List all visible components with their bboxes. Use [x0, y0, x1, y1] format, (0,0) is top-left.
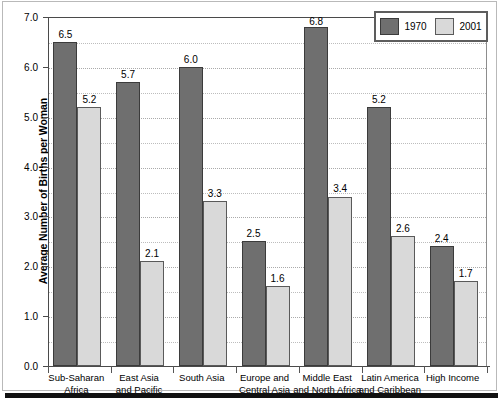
- legend-swatch-2001-icon: [435, 18, 454, 35]
- y-axis-tick-label: 0.0: [8, 361, 38, 372]
- gridline: [49, 193, 486, 194]
- legend-swatch-1970-icon: [380, 18, 399, 35]
- gridline: [49, 242, 486, 243]
- bar-value-label: 1.6: [271, 273, 285, 284]
- bottom-rule-divider: [5, 393, 498, 398]
- bar-value-label: 3.3: [208, 188, 222, 199]
- y-axis-tick-label: 2.0: [8, 261, 38, 272]
- x-axis-category-label: High Income: [426, 372, 479, 384]
- bar-2001-1: [77, 107, 101, 366]
- gridline: [49, 68, 486, 69]
- x-axis-tick-mark: [487, 366, 488, 373]
- x-axis-line: [45, 366, 490, 367]
- gridline: [49, 217, 486, 218]
- bar-value-label: 2.4: [435, 233, 449, 244]
- x-axis-category-label: Sub-SaharanAfrica: [48, 372, 104, 395]
- bar-value-label: 2.6: [396, 223, 410, 234]
- bar-1970-1: [53, 42, 77, 366]
- bar-value-label: 2.1: [145, 248, 159, 259]
- bar-2001-5: [328, 197, 352, 367]
- x-axis-tick-mark: [173, 366, 174, 373]
- x-axis-tick-mark: [111, 366, 112, 373]
- gridline: [49, 93, 486, 94]
- bar-value-label: 6.0: [184, 54, 198, 65]
- gridline: [49, 168, 486, 169]
- gridline: [49, 267, 486, 268]
- gridline: [49, 118, 486, 119]
- x-axis-tick-mark: [236, 366, 237, 373]
- y-axis-tick-label: 5.0: [8, 111, 38, 122]
- bar-1970-4: [242, 241, 266, 366]
- figure-container: Average Number of Births per Woman 0.01.…: [0, 0, 503, 405]
- y-axis-tick-label: 4.0: [8, 161, 38, 172]
- x-axis-category-label: Latin Americaand Caribbean: [359, 372, 421, 395]
- chart-legend: 1970 2001: [374, 11, 488, 42]
- x-axis-category-label: Middle Eastand North Africa: [293, 372, 361, 395]
- bar-value-label: 3.4: [333, 183, 347, 194]
- legend-label-1970: 1970: [404, 21, 426, 32]
- x-axis-category-label-line: Sub-Saharan: [48, 372, 104, 384]
- bar-2001-4: [266, 286, 290, 366]
- plot-area: 6.55.25.72.16.03.32.51.66.83.45.22.62.41…: [48, 17, 487, 366]
- bar-2001-7: [454, 281, 478, 366]
- x-axis-category-label-line: High Income: [426, 372, 479, 384]
- bar-value-label: 2.5: [247, 228, 261, 239]
- bar-value-label: 5.2: [82, 94, 96, 105]
- y-axis-tick-label: 7.0: [8, 12, 38, 23]
- bar-1970-5: [304, 27, 328, 366]
- bar-1970-6: [367, 107, 391, 366]
- x-axis-category-label: South Asia: [179, 372, 224, 384]
- x-axis-category-label-line: East Asia: [116, 372, 162, 384]
- bar-2001-2: [140, 261, 164, 366]
- bar-value-label: 5.2: [372, 94, 386, 105]
- bar-value-label: 5.7: [121, 69, 135, 80]
- bar-value-label: 1.7: [459, 268, 473, 279]
- x-axis-category-label-line: Latin America: [359, 372, 421, 384]
- bar-1970-2: [116, 82, 140, 366]
- bar-2001-3: [203, 201, 227, 366]
- gridline: [49, 143, 486, 144]
- legend-entry-1970: 1970: [380, 18, 426, 35]
- y-axis-tick-label: 1.0: [8, 311, 38, 322]
- gridline: [49, 43, 486, 44]
- legend-entry-2001: 2001: [435, 18, 481, 35]
- bar-1970-3: [179, 67, 203, 366]
- y-axis-tick-label: 6.0: [8, 61, 38, 72]
- x-axis-category-label: Europe andCentral Asia: [239, 372, 290, 395]
- x-axis-category-label-line: Europe and: [239, 372, 290, 384]
- bar-2001-6: [391, 236, 415, 366]
- bar-1970-7: [430, 246, 454, 366]
- legend-label-2001: 2001: [459, 21, 481, 32]
- x-axis-category-label: East Asiaand Pacific: [116, 372, 162, 395]
- x-axis-category-label-line: South Asia: [179, 372, 224, 384]
- bar-value-label: 6.8: [309, 16, 323, 27]
- x-axis-category-label-line: Middle East: [293, 372, 361, 384]
- bar-value-label: 6.5: [58, 29, 72, 40]
- y-axis-tick-label: 3.0: [8, 211, 38, 222]
